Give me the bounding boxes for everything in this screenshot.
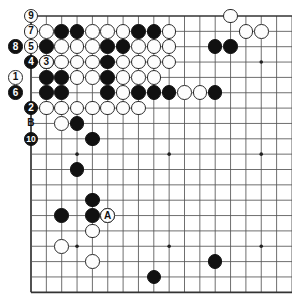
- black-stone: [85, 208, 100, 223]
- white-stone: [85, 39, 100, 54]
- white-stone: [131, 55, 146, 70]
- white-stone: [162, 24, 177, 39]
- board-marker-a: A: [100, 208, 115, 223]
- white-stone: [254, 24, 269, 39]
- black-stone: [131, 24, 146, 39]
- black-stone: [100, 85, 115, 100]
- white-stone: [131, 70, 146, 85]
- black-stone: [39, 39, 54, 54]
- white-stone: [131, 39, 146, 54]
- black-stone: [54, 85, 69, 100]
- white-stone: [54, 239, 69, 254]
- white-stone: [239, 24, 254, 39]
- white-stone: [39, 24, 54, 39]
- white-stone: [85, 224, 100, 239]
- white-stone: [116, 24, 131, 39]
- white-stone: [147, 39, 162, 54]
- white-stone: [100, 24, 115, 39]
- white-stone: [39, 101, 54, 116]
- white-stone: [223, 9, 238, 24]
- white-stone: [54, 116, 69, 131]
- black-stone: [147, 24, 162, 39]
- black-stone: [54, 70, 69, 85]
- black-stone: [85, 132, 100, 147]
- white-stone: [85, 101, 100, 116]
- white-stone: [70, 70, 85, 85]
- white-stone: [85, 55, 100, 70]
- black-stone: [85, 193, 100, 208]
- white-stone: [54, 39, 69, 54]
- black-stone: [54, 208, 69, 223]
- white-stone: [85, 70, 100, 85]
- black-stone: [70, 24, 85, 39]
- black-stone: [70, 162, 85, 177]
- black-stone: [100, 39, 115, 54]
- white-stone: [147, 70, 162, 85]
- black-stone: [54, 24, 69, 39]
- numbered-stone-3: 3: [39, 55, 54, 70]
- numbered-stone-7: 7: [24, 24, 39, 39]
- numbered-stone-8: 8: [8, 39, 23, 54]
- move-label-b: B: [24, 116, 39, 131]
- white-stone: [85, 24, 100, 39]
- black-stone: [223, 39, 238, 54]
- black-stone: [100, 70, 115, 85]
- white-stone: [177, 85, 192, 100]
- black-stone: [39, 70, 54, 85]
- white-stone: [116, 70, 131, 85]
- go-board-diagram: 975843162B10A: [0, 0, 292, 299]
- black-stone: [147, 85, 162, 100]
- white-stone: [193, 85, 208, 100]
- white-stone: [131, 101, 146, 116]
- black-stone: [131, 85, 146, 100]
- black-stone: [39, 85, 54, 100]
- numbered-stone-6: 6: [8, 85, 23, 100]
- numbered-stone-5: 5: [24, 39, 39, 54]
- white-stone: [85, 254, 100, 269]
- black-stone: [70, 116, 85, 131]
- numbered-stone-1: 1: [8, 70, 23, 85]
